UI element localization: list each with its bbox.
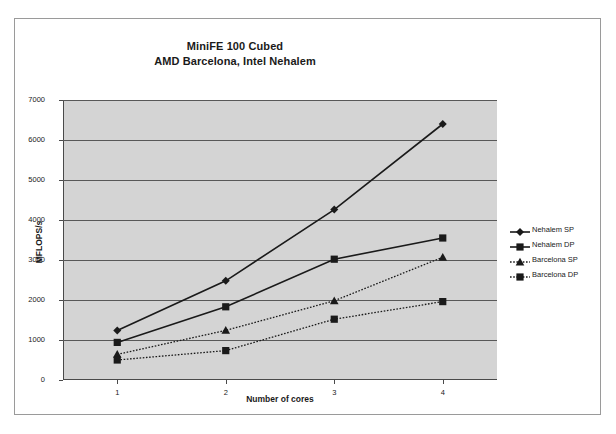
- x-tick-mark: [443, 380, 444, 384]
- y-tick-label: 2000: [1, 296, 45, 304]
- y-tick-label: 5000: [1, 176, 45, 184]
- series-barcelona-sp: [113, 253, 447, 358]
- x-tick-label: 2: [206, 388, 246, 397]
- x-tick-label: 1: [97, 388, 137, 397]
- data-point-marker: [331, 256, 338, 263]
- legend-marker-diamond-icon: [509, 224, 531, 236]
- series-line: [117, 302, 443, 360]
- y-tick-label: 0: [1, 376, 45, 384]
- series-barcelona-dp: [114, 298, 447, 364]
- x-tick-mark: [226, 380, 227, 384]
- legend-label: Nehalem SP: [531, 225, 574, 234]
- legend-marker-square-icon: [509, 239, 531, 251]
- chart: MiniFE 100 Cubed AMD Barcelona, Intel Ne…: [15, 19, 602, 416]
- y-tick-label: 7000: [1, 96, 45, 104]
- x-tick-mark: [117, 380, 118, 384]
- legend-item: Nehalem SP: [509, 222, 601, 237]
- y-axis-title: MFLOPS/s: [34, 182, 44, 302]
- document-frame: MiniFE 100 Cubed AMD Barcelona, Intel Ne…: [14, 18, 601, 415]
- data-point-marker: [221, 326, 230, 334]
- x-tick-label: 3: [314, 388, 354, 397]
- data-point-marker: [114, 339, 121, 346]
- y-tick-label: 3000: [1, 256, 45, 264]
- data-point-marker: [222, 277, 230, 285]
- legend-item: Barcelona SP: [509, 252, 601, 267]
- plot-wrapper: 01000200030004000500060007000 1234: [63, 100, 497, 380]
- data-point-marker: [438, 253, 447, 261]
- y-tick-label: 4000: [1, 216, 45, 224]
- legend-label: Barcelona SP: [531, 255, 578, 264]
- chart-title-line2: AMD Barcelona, Intel Nehalem: [15, 54, 455, 69]
- y-tick-label: 6000: [1, 136, 45, 144]
- legend: Nehalem SPNehalem DPBarcelona SPBarcelon…: [509, 222, 601, 282]
- data-point-marker: [439, 234, 446, 241]
- y-tick-mark: [59, 380, 63, 381]
- series-nehalem-dp: [114, 234, 447, 346]
- legend-item: Barcelona DP: [509, 267, 601, 282]
- data-point-marker: [113, 326, 121, 334]
- series-nehalem-sp: [113, 120, 447, 334]
- x-tick-mark: [334, 380, 335, 384]
- y-tick-label: 1000: [1, 336, 45, 344]
- data-point-marker: [222, 347, 229, 354]
- x-tick-label: 4: [423, 388, 463, 397]
- legend-label: Barcelona DP: [531, 270, 578, 279]
- data-point-marker: [222, 303, 229, 310]
- data-point-marker: [331, 316, 338, 323]
- legend-item: Nehalem DP: [509, 237, 601, 252]
- data-point-marker: [330, 297, 339, 305]
- series-layer: [63, 100, 497, 380]
- legend-label: Nehalem DP: [531, 240, 575, 249]
- data-point-marker: [114, 356, 121, 363]
- series-line: [117, 238, 443, 342]
- chart-title: MiniFE 100 Cubed AMD Barcelona, Intel Ne…: [15, 39, 455, 69]
- legend-marker-triangle-icon: [509, 254, 531, 266]
- series-line: [117, 257, 443, 354]
- chart-title-line1: MiniFE 100 Cubed: [187, 40, 283, 52]
- data-point-marker: [439, 298, 446, 305]
- series-line: [117, 124, 443, 330]
- legend-marker-square-icon: [509, 269, 531, 281]
